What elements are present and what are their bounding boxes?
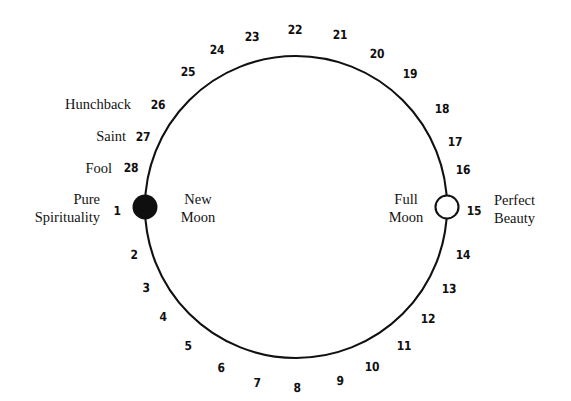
day-number-4: 4 xyxy=(159,311,166,324)
fool-label-line-1: Fool xyxy=(85,160,112,178)
day-number-11: 11 xyxy=(397,340,411,353)
perfect-beauty-label-line-1: Perfect xyxy=(494,192,535,210)
day-number-6: 6 xyxy=(217,362,224,375)
day-number-28: 28 xyxy=(124,162,138,175)
day-number-25: 25 xyxy=(181,66,195,79)
day-number-18: 18 xyxy=(435,103,449,116)
day-number-21: 21 xyxy=(333,29,347,42)
day-number-27: 27 xyxy=(136,131,150,144)
day-number-26: 26 xyxy=(151,99,165,112)
saint-label: Saint xyxy=(96,128,126,146)
lunar-cycle-figure: 1234567891011121314151617181920212223242… xyxy=(0,0,571,401)
full-moon-marker-icon xyxy=(436,196,459,219)
day-number-2: 2 xyxy=(130,249,137,262)
day-number-24: 24 xyxy=(210,44,224,57)
day-number-19: 19 xyxy=(403,68,417,81)
day-number-9: 9 xyxy=(336,375,343,388)
day-number-20: 20 xyxy=(370,48,384,61)
day-number-23: 23 xyxy=(245,31,259,44)
day-number-3: 3 xyxy=(142,282,149,295)
day-number-14: 14 xyxy=(456,249,470,262)
perfect-beauty-label: PerfectBeauty xyxy=(494,192,535,227)
new-moon-label: NewMoon xyxy=(181,191,216,226)
day-number-22: 22 xyxy=(288,24,302,37)
full-moon-label-line-1: Full xyxy=(389,191,424,209)
fool-label: Fool xyxy=(85,160,112,178)
hunchback-label: Hunchback xyxy=(65,96,131,114)
pure-spirituality-label-line-2: Spirituality xyxy=(35,209,100,227)
pure-spirituality-label-line-1: Pure xyxy=(35,191,100,209)
day-number-10: 10 xyxy=(365,361,379,374)
day-number-5: 5 xyxy=(184,340,191,353)
hunchback-label-line-1: Hunchback xyxy=(65,96,131,114)
day-number-8: 8 xyxy=(293,382,300,395)
day-number-7: 7 xyxy=(253,377,260,390)
day-number-15: 15 xyxy=(467,205,481,218)
day-number-1: 1 xyxy=(113,205,120,218)
saint-label-line-1: Saint xyxy=(96,128,126,146)
new-moon-label-line-1: New xyxy=(181,191,216,209)
pure-spirituality-label: PureSpirituality xyxy=(35,191,100,226)
day-number-12: 12 xyxy=(421,313,435,326)
new-moon-label-line-2: Moon xyxy=(181,209,216,227)
full-moon-label-line-2: Moon xyxy=(389,209,424,227)
full-moon-label: FullMoon xyxy=(389,191,424,226)
perfect-beauty-label-line-2: Beauty xyxy=(494,210,535,228)
day-number-16: 16 xyxy=(456,164,470,177)
day-number-13: 13 xyxy=(442,283,456,296)
day-number-17: 17 xyxy=(448,136,462,149)
new-moon-marker-icon xyxy=(133,195,158,220)
